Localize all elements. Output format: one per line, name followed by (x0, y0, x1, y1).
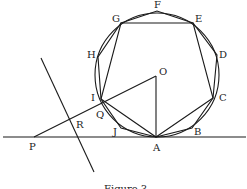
label-a: A (152, 142, 161, 153)
label-q: Q (96, 109, 104, 120)
label-p: P (29, 141, 36, 152)
label-e: E (195, 13, 202, 24)
label-f: F (154, 0, 161, 10)
label-j: J (112, 126, 117, 137)
figure-caption: Figure 3 (104, 183, 147, 189)
pentagon (101, 23, 213, 137)
transversal-line (41, 58, 94, 172)
label-r: R (76, 119, 84, 130)
label-i: I (91, 92, 95, 103)
label-g: G (112, 13, 120, 24)
label-c: C (219, 92, 227, 103)
label-o: O (159, 66, 167, 77)
segment-po (34, 76, 156, 137)
label-d: D (219, 49, 227, 60)
label-b: B (194, 126, 201, 137)
geometry-figure: F G E H D O I C Q R J B P A Figure 3 (0, 0, 247, 189)
label-h: H (87, 49, 96, 60)
circle (95, 13, 219, 137)
